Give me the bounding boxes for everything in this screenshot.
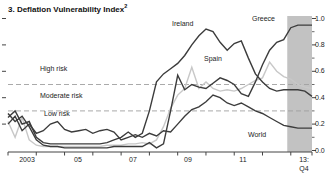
series-label-spain: Spain bbox=[204, 55, 222, 63]
moderate-risk-label: Moderate risk bbox=[40, 92, 82, 100]
forecast-band bbox=[287, 16, 312, 152]
high-risk-label: High risk bbox=[40, 65, 67, 73]
y-tick-label-0.8: 0.8 bbox=[315, 41, 325, 49]
x-tick-label-09: 09 bbox=[184, 156, 192, 164]
series-label-ireland: Ireland bbox=[172, 20, 193, 28]
series-line-greece bbox=[8, 25, 312, 148]
chart-title: 3. Deflation Vulnerability Index2 bbox=[8, 3, 127, 14]
chart-title-text: 3. Deflation Vulnerability Index bbox=[8, 5, 124, 14]
x-tick-label-11: 11 bbox=[239, 156, 246, 164]
x-tick-label-05: 05 bbox=[74, 156, 82, 164]
series-label-greece: Greece bbox=[252, 15, 275, 23]
y-tick-label-0.0: 0.0 bbox=[315, 147, 325, 155]
y-tick-label-1.0: 1.0 bbox=[315, 15, 325, 23]
x-tick-label-Q4: Q4 bbox=[299, 165, 308, 173]
y-tick-label-0.4: 0.4 bbox=[315, 94, 325, 102]
deflation-vulnerability-panel: 3. Deflation Vulnerability Index2 Irelan… bbox=[0, 0, 330, 188]
x-tick-label-13:: 13: bbox=[299, 156, 309, 164]
series-line-ireland bbox=[8, 29, 312, 144]
y-tick-label-0.2: 0.2 bbox=[315, 120, 325, 128]
x-tick-label-2003: 2003 bbox=[19, 156, 35, 164]
y-tick-label-0.6: 0.6 bbox=[315, 67, 325, 75]
low-risk-label: Low risk bbox=[44, 110, 70, 118]
chart-title-footnote-marker: 2 bbox=[124, 3, 127, 9]
series-label-world: World bbox=[248, 131, 266, 139]
x-tick-label-07: 07 bbox=[129, 156, 137, 164]
